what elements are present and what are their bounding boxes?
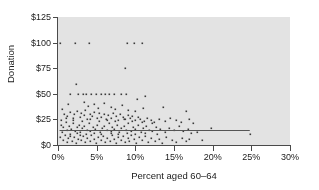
scatter-points-layer <box>58 17 290 145</box>
y-tick <box>53 43 58 44</box>
y-axis-title: Donation <box>6 26 16 102</box>
y-tick <box>53 17 58 18</box>
x-tick <box>97 146 98 151</box>
plot-area <box>58 17 290 145</box>
x-tick <box>135 146 136 151</box>
y-tick-label: $25 <box>5 115 51 124</box>
y-tick <box>53 68 58 69</box>
scatter-chart-figure: $0$25$50$75$100$125 0%5%10%15%20%25%30% … <box>0 0 319 190</box>
x-axis-title: Percent aged 60–64 <box>58 171 290 181</box>
x-tick <box>251 146 252 151</box>
y-tick-label: $125 <box>5 13 51 22</box>
x-tick-label: 15% <box>154 153 194 162</box>
x-tick-label: 0% <box>38 153 78 162</box>
x-tick <box>174 146 175 151</box>
x-tick-label: 20% <box>193 153 233 162</box>
x-tick <box>290 146 291 151</box>
y-tick <box>53 119 58 120</box>
y-tick-label: $0 <box>5 141 51 150</box>
x-tick <box>58 146 59 151</box>
x-tick-label: 25% <box>231 153 271 162</box>
x-tick <box>213 146 214 151</box>
y-axis-line <box>57 17 58 146</box>
y-tick <box>53 94 58 95</box>
x-tick-label: 5% <box>77 153 117 162</box>
x-tick-label: 30% <box>270 153 310 162</box>
x-tick-label: 10% <box>115 153 155 162</box>
